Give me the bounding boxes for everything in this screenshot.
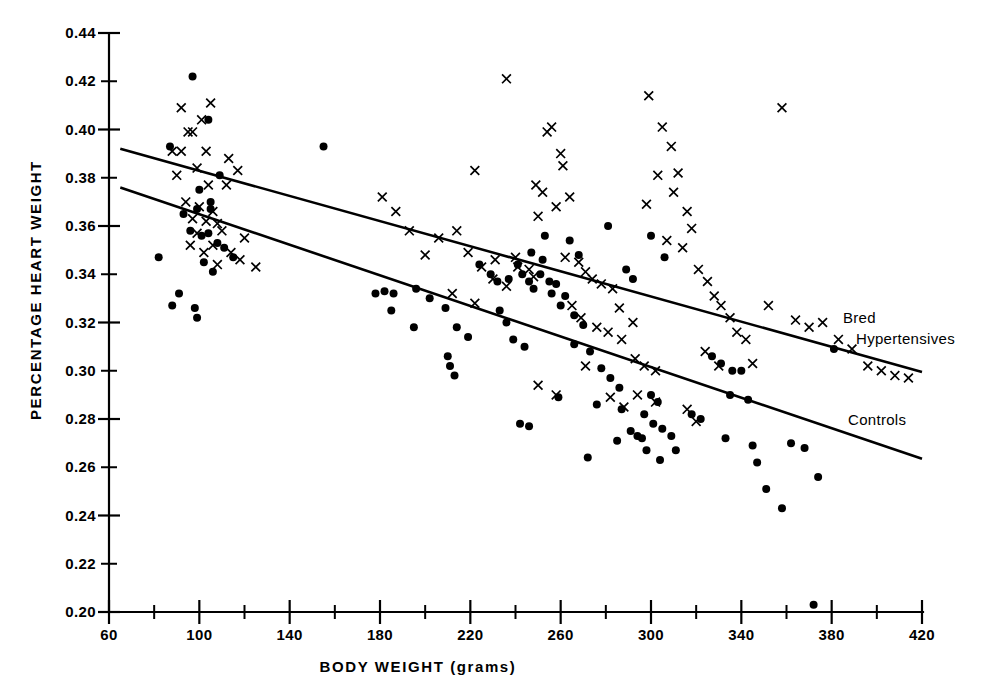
data-point-hypertensive [534, 212, 543, 221]
data-point-hypertensive [177, 147, 186, 156]
data-point-hypertensive [732, 328, 741, 337]
data-point-hypertensive [662, 236, 671, 245]
data-point-control [518, 270, 526, 278]
data-point-hypertensive [667, 142, 676, 151]
data-point-control [525, 422, 533, 430]
y-tick-label: 0.22 [65, 555, 96, 572]
data-point-hypertensive [644, 91, 653, 100]
data-point-hypertensive [577, 313, 586, 322]
data-point-control [464, 333, 472, 341]
data-point-hypertensive [778, 103, 787, 112]
data-point-control [638, 434, 646, 442]
x-tick-label: 180 [367, 626, 393, 643]
data-point-control [629, 275, 637, 283]
data-point-control [561, 292, 569, 300]
data-point-hypertensive [791, 316, 800, 325]
data-point-control [647, 232, 655, 240]
data-point-hypertensive [188, 214, 197, 223]
y-tick-label: 0.26 [65, 458, 96, 475]
data-point-hypertensive [683, 207, 692, 216]
data-point-hypertensive [877, 366, 886, 375]
data-point-control [566, 236, 574, 244]
data-point-hypertensive [502, 282, 511, 291]
x-tick-label: 60 [100, 626, 118, 643]
data-point-control [548, 290, 556, 298]
y-axis-title: PERCENTAGE HEART WEIGHT [27, 160, 44, 420]
data-point-control [441, 304, 449, 312]
data-point-control [667, 432, 675, 440]
data-point-hypertensive [184, 128, 193, 137]
data-point-control [180, 210, 188, 218]
data-point-control [749, 442, 757, 450]
y-tick-label: 0.32 [65, 314, 96, 331]
data-point-control [155, 253, 163, 261]
data-point-hypertensive [592, 323, 601, 332]
data-point-control [186, 227, 194, 235]
data-point-hypertensive [764, 301, 773, 310]
x-tick-label: 340 [728, 626, 754, 643]
data-point-hypertensive [561, 253, 570, 262]
y-tick-label: 0.24 [65, 507, 96, 524]
series-points-controls [155, 72, 838, 608]
data-point-hypertensive [538, 188, 547, 197]
data-point-control [387, 306, 395, 314]
data-point-control [613, 437, 621, 445]
data-point-hypertensive [202, 147, 211, 156]
data-point-control [642, 446, 650, 454]
series-label-bred-hypertensives-line1: Bred [843, 309, 876, 326]
data-point-hypertensive [683, 405, 692, 414]
data-point-control [509, 335, 517, 343]
data-point-control [168, 302, 176, 310]
data-point-hypertensive [904, 374, 913, 383]
data-point-control [552, 280, 560, 288]
data-point-control [496, 306, 504, 314]
data-point-control [661, 253, 669, 261]
data-point-hypertensive [213, 260, 222, 269]
data-point-control [708, 352, 716, 360]
y-tick-label: 0.42 [65, 72, 96, 89]
data-point-control [536, 270, 544, 278]
data-point-control [207, 198, 215, 206]
data-point-hypertensive [674, 169, 683, 178]
data-point-control [390, 290, 398, 298]
data-point-control [444, 352, 452, 360]
x-tick-label: 420 [909, 626, 935, 643]
y-tick-label: 0.20 [65, 603, 96, 620]
data-point-hypertensive [653, 171, 662, 180]
data-point-control [737, 367, 745, 375]
data-point-control [579, 321, 587, 329]
data-point-hypertensive [669, 188, 678, 197]
x-tick-label: 300 [638, 626, 664, 643]
series-points-bred-hypertensives [168, 74, 913, 425]
data-point-hypertensive [222, 181, 231, 190]
x-tick-label: 380 [819, 626, 845, 643]
x-tick-label: 100 [186, 626, 212, 643]
data-point-control [778, 504, 786, 512]
data-point-hypertensive [678, 243, 687, 252]
y-tick-label: 0.38 [65, 169, 96, 186]
data-point-control [175, 290, 183, 298]
data-point-hypertensive [391, 207, 400, 216]
series-label-bred-hypertensives-line2: Hypertensives [856, 330, 955, 347]
y-tick-label: 0.44 [65, 24, 96, 41]
data-point-control [672, 446, 680, 454]
data-point-hypertensive [834, 335, 843, 344]
data-point-hypertensive [421, 251, 430, 260]
x-axis-title: BODY WEIGHT (grams) [320, 658, 517, 675]
data-point-control [527, 249, 535, 257]
data-point-hypertensive [629, 318, 638, 327]
data-point-control [451, 372, 459, 380]
data-point-hypertensive [633, 390, 642, 399]
y-tick-label: 0.36 [65, 217, 96, 234]
data-point-control [209, 268, 217, 276]
data-point-hypertensive [559, 161, 568, 170]
data-point-hypertensive [565, 193, 574, 202]
data-point-hypertensive [818, 318, 827, 327]
data-point-hypertensive [448, 289, 457, 298]
x-axis-tick-labels: 60100140180220260300340380420 [100, 626, 935, 643]
data-point-control [521, 343, 529, 351]
data-point-hypertensive [177, 103, 186, 112]
data-point-control [539, 256, 547, 264]
data-point-hypertensive [741, 335, 750, 344]
data-point-hypertensive [568, 301, 577, 310]
